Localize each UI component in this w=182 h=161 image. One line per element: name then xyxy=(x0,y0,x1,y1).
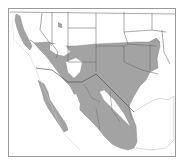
range-map xyxy=(0,0,182,161)
